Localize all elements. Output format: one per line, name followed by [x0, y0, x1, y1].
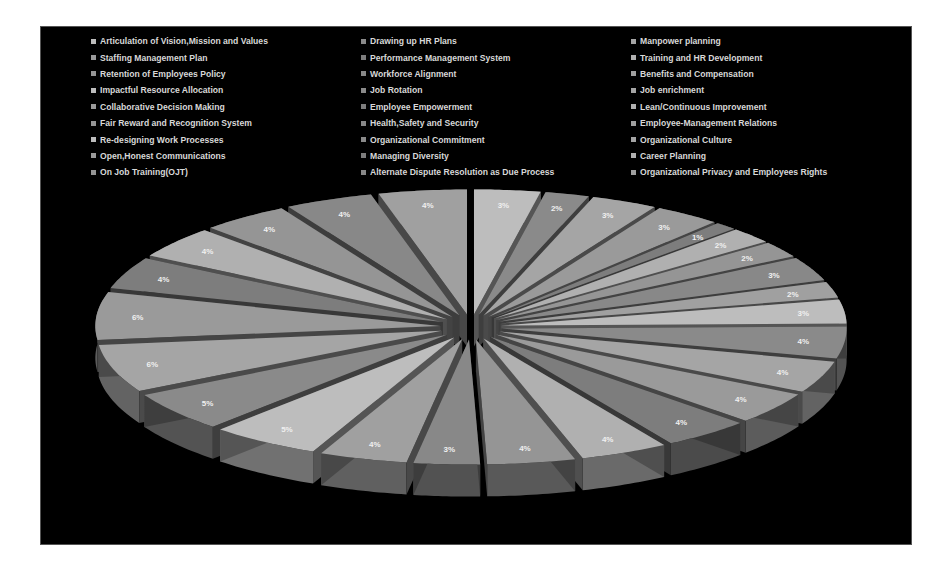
- legend-item: Retention of Employees Policy: [91, 66, 361, 82]
- legend-swatch-icon: [361, 55, 366, 60]
- legend-label: Re-designing Work Processes: [100, 135, 224, 145]
- legend-item: Drawing up HR Plans: [361, 33, 631, 49]
- slice-percent-label: 6%: [132, 313, 144, 322]
- legend-label: Organizational Commitment: [370, 135, 485, 145]
- legend-label: Impactful Resource Allocation: [100, 85, 223, 95]
- legend-item: Impactful Resource Allocation: [91, 82, 361, 98]
- legend-item: Organizational Commitment: [361, 131, 631, 147]
- legend-swatch-icon: [631, 88, 636, 93]
- slice-percent-label: 2%: [715, 241, 727, 250]
- legend-label: Lean/Continuous Improvement: [640, 102, 767, 112]
- legend-item: Organizational Culture: [631, 131, 881, 147]
- legend-item: Job Rotation: [361, 82, 631, 98]
- legend-label: Health,Safety and Security: [370, 118, 478, 128]
- legend-swatch-icon: [91, 71, 96, 76]
- legend-item: Training and HR Development: [631, 49, 881, 65]
- legend-swatch-icon: [91, 170, 96, 175]
- legend-label: Manpower planning: [640, 36, 721, 46]
- slice-percent-label: 5%: [281, 425, 293, 434]
- legend-item: Staffing Management Plan: [91, 49, 361, 65]
- legend-label: Workforce Alignment: [370, 69, 456, 79]
- chart-legend: Articulation of Vision,Mission and Value…: [91, 33, 881, 181]
- slice-percent-label: 4%: [339, 210, 351, 219]
- legend-label: Alternate Dispute Resolution as Due Proc…: [370, 167, 554, 177]
- legend-item: Open,Honest Communications: [91, 148, 361, 164]
- legend-item: Workforce Alignment: [361, 66, 631, 82]
- legend-item: Managing Diversity: [361, 148, 631, 164]
- legend-swatch-icon: [631, 137, 636, 142]
- slice-percent-label: 6%: [147, 360, 159, 369]
- slice-percent-label: 4%: [158, 275, 170, 284]
- legend-label: Career Planning: [640, 151, 706, 161]
- slice-percent-label: 3%: [444, 445, 456, 454]
- legend-swatch-icon: [631, 104, 636, 109]
- legend-item: Performance Management System: [361, 49, 631, 65]
- legend-swatch-icon: [361, 71, 366, 76]
- legend-label: Performance Management System: [370, 53, 510, 63]
- legend-item: On Job Training(OJT): [91, 164, 361, 180]
- legend-swatch-icon: [361, 88, 366, 93]
- slice-percent-label: 3%: [498, 201, 510, 210]
- legend-item: Job enrichment: [631, 82, 881, 98]
- legend-label: Open,Honest Communications: [100, 151, 226, 161]
- slice-percent-label: 2%: [741, 254, 753, 263]
- legend-swatch-icon: [361, 104, 366, 109]
- legend-swatch-icon: [91, 39, 96, 44]
- legend-item: Re-designing Work Processes: [91, 131, 361, 147]
- legend-swatch-icon: [91, 121, 96, 126]
- slice-percent-label: 4%: [263, 225, 275, 234]
- legend-label: Articulation of Vision,Mission and Value…: [100, 36, 268, 46]
- legend-swatch-icon: [91, 104, 96, 109]
- legend-item: Organizational Privacy and Employees Rig…: [631, 164, 881, 180]
- legend-item: Health,Safety and Security: [361, 115, 631, 131]
- slice-percent-label: 4%: [676, 418, 688, 427]
- legend-label: Collaborative Decision Making: [100, 102, 225, 112]
- slice-percent-label: 4%: [519, 444, 531, 453]
- slice-percent-label: 5%: [202, 399, 214, 408]
- legend-item: Lean/Continuous Improvement: [631, 99, 881, 115]
- chart-frame: 3%4%2%4%3%3%4%1%2%4%2%3%4%2%3%6%4%6%4%4%…: [40, 26, 912, 545]
- legend-swatch-icon: [91, 88, 96, 93]
- slice-percent-label: 4%: [602, 435, 614, 444]
- legend-label: Job enrichment: [640, 85, 704, 95]
- legend-swatch-icon: [361, 121, 366, 126]
- legend-label: Drawing up HR Plans: [370, 36, 457, 46]
- legend-label: Employee-Management Relations: [640, 118, 777, 128]
- legend-swatch-icon: [631, 39, 636, 44]
- legend-swatch-icon: [361, 153, 366, 158]
- legend-label: Benefits and Compensation: [640, 69, 754, 79]
- legend-label: Employee Empowerment: [370, 102, 472, 112]
- legend-item: Career Planning: [631, 148, 881, 164]
- legend-item: Alternate Dispute Resolution as Due Proc…: [361, 164, 631, 180]
- legend-label: Fair Reward and Recognition System: [100, 118, 252, 128]
- slice-percent-label: 4%: [422, 201, 434, 210]
- legend-label: Staffing Management Plan: [100, 53, 207, 63]
- legend-label: Managing Diversity: [370, 151, 449, 161]
- legend-item: Benefits and Compensation: [631, 66, 881, 82]
- legend-label: On Job Training(OJT): [100, 167, 188, 177]
- slice-percent-label: 4%: [369, 440, 381, 449]
- slice-percent-label: 4%: [797, 337, 809, 346]
- legend-label: Job Rotation: [370, 85, 423, 95]
- slice-percent-label: 4%: [735, 395, 747, 404]
- legend-swatch-icon: [361, 170, 366, 175]
- legend-item: Manpower planning: [631, 33, 881, 49]
- slice-percent-label: 1%: [692, 233, 704, 242]
- slice-percent-label: 3%: [658, 223, 670, 232]
- legend-item: Employee-Management Relations: [631, 115, 881, 131]
- slice-percent-label: 2%: [787, 290, 799, 299]
- slice-percent-label: 2%: [551, 204, 563, 213]
- legend-item: Employee Empowerment: [361, 99, 631, 115]
- legend-swatch-icon: [91, 137, 96, 142]
- slice-percent-label: 3%: [797, 309, 809, 318]
- legend-swatch-icon: [361, 137, 366, 142]
- legend-swatch-icon: [631, 153, 636, 158]
- legend-label: Training and HR Development: [640, 53, 762, 63]
- legend-swatch-icon: [631, 55, 636, 60]
- slice-percent-label: 4%: [777, 368, 789, 377]
- legend-label: Organizational Culture: [640, 135, 732, 145]
- legend-item: Articulation of Vision,Mission and Value…: [91, 33, 361, 49]
- legend-swatch-icon: [91, 55, 96, 60]
- legend-item: Collaborative Decision Making: [91, 99, 361, 115]
- slice-percent-label: 4%: [202, 247, 214, 256]
